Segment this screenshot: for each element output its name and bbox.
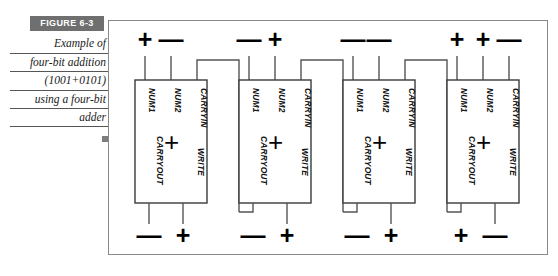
operator-symbol-b1: +	[268, 127, 283, 157]
port-label-b0-num1: NUM1	[147, 88, 157, 113]
signal-top-b3-num2: +	[476, 25, 491, 53]
signal-top-b0-num1: +	[138, 25, 153, 53]
port-label-b3-write: WRITE	[508, 148, 518, 176]
signal-bot-b1-write: +	[280, 221, 295, 249]
port-label-b2-write: WRITE	[404, 148, 414, 176]
adder-diagram: + — NUM1 NUM2 CARRYIN CARRYOUT WRITE + —…	[108, 20, 548, 255]
adder-block-1: — + NUM1 NUM2 CARRYIN CARRYOUT WRITE + —…	[237, 25, 344, 249]
signal-bot-b2-carryout: —	[345, 221, 370, 249]
port-label-b1-num1: NUM1	[251, 88, 261, 113]
caption-line-1: Example of	[10, 35, 108, 53]
caption-line-3: (1001+0101)	[10, 72, 108, 90]
caption-end-marker	[10, 127, 108, 147]
port-label-b1-carryin: CARRYIN	[303, 88, 313, 128]
figure-container: FIGURE 6-3 Example of four-bit addition …	[0, 0, 558, 276]
port-label-b2-num1: NUM1	[355, 88, 365, 113]
wire-b3-carryout-link	[447, 203, 461, 212]
caption-line-2: four-bit addition	[10, 54, 108, 72]
signal-top-b1-num2: +	[268, 25, 283, 53]
port-label-b0-write: WRITE	[196, 148, 206, 176]
operator-symbol-b3: +	[476, 127, 491, 157]
port-label-b3-num2: NUM2	[485, 88, 495, 113]
signal-bot-b3-write: —	[483, 221, 508, 249]
caption-line-5: adder	[10, 109, 108, 127]
port-label-b2-carryin: CARRYIN	[407, 88, 417, 128]
signal-bot-b0-write: +	[176, 221, 191, 249]
signal-bot-b3-carryout: +	[454, 221, 469, 249]
signal-top-b2-num1: —	[341, 25, 366, 53]
port-label-b0-carryin: CARRYIN	[199, 88, 209, 128]
port-label-b1-num2: NUM2	[277, 88, 287, 113]
port-label-b3-carryin: CARRYIN	[511, 88, 521, 128]
signal-top-b0-num2: —	[159, 25, 184, 53]
caption-line-4: using a four-bit	[10, 91, 108, 109]
operator-symbol-b0: +	[164, 127, 179, 157]
signal-bot-b0-carryout: —	[137, 221, 162, 249]
port-label-b1-write: WRITE	[300, 148, 310, 176]
signal-bot-b2-write: +	[384, 221, 399, 249]
signal-top-b3-num1: +	[450, 25, 465, 53]
adder-block-0: + — NUM1 NUM2 CARRYIN CARRYOUT WRITE + —…	[135, 25, 239, 249]
port-label-b3-num1: NUM1	[459, 88, 469, 113]
figure-number-label: FIGURE 6-3	[30, 16, 104, 31]
operator-symbol-b2: +	[372, 127, 387, 157]
adder-block-2: — — NUM1 NUM2 CARRYIN CARRYOUT WRITE + —…	[341, 25, 448, 249]
adder-block-3: + + — NUM1 NUM2 CARRYIN CARRYOUT WRITE +…	[447, 25, 522, 249]
wire-b2-carryout-link	[343, 203, 357, 212]
signal-bot-b1-carryout: —	[241, 221, 266, 249]
signal-top-b3-carryin: —	[497, 25, 522, 53]
signal-top-b1-num1: —	[237, 25, 262, 53]
wire-b1-carryout-link	[239, 203, 253, 212]
figure-caption-block: FIGURE 6-3 Example of four-bit addition …	[10, 16, 108, 147]
port-label-b0-num2: NUM2	[173, 88, 183, 113]
signal-top-b2-num2: —	[367, 25, 392, 53]
port-label-b2-num2: NUM2	[381, 88, 391, 113]
